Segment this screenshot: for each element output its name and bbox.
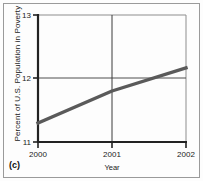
- x-axis-label: Year: [38, 163, 186, 172]
- x-tick-label-2001: 2001: [95, 150, 129, 159]
- panel-caption: (c): [9, 160, 20, 170]
- x-tick-label-2000: 2000: [21, 150, 55, 159]
- x-tick-label-2002: 2002: [169, 150, 203, 159]
- figure-panel-c: 13 12 11 2000 2001 2002 Percent of U.S. …: [0, 0, 203, 181]
- y-axis-label: Percent of U.S. Population in Poverty: [13, 12, 22, 142]
